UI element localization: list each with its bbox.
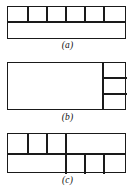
panel-b-vertical-divider — [102, 63, 104, 109]
panel-a-vertical-divider-5 — [103, 7, 105, 21]
panel-c-rectangle — [7, 133, 126, 173]
panel-b-horizontal-divider-2 — [102, 93, 127, 95]
panel-a-vertical-divider-2 — [46, 7, 48, 21]
panel-c-bottom-vertical-divider-1 — [65, 153, 67, 174]
panel-c-top-vertical-divider-3 — [65, 134, 67, 153]
figure-container: (a) (b) (c) — [0, 0, 135, 196]
panel-a-vertical-divider-4 — [84, 7, 86, 21]
panel-c-bottom-vertical-divider-3 — [103, 153, 105, 174]
panel-a-rectangle — [7, 6, 126, 39]
panel-a-caption: (a) — [0, 40, 135, 51]
panel-a-vertical-divider-3 — [65, 7, 67, 21]
panel-a-vertical-divider-1 — [27, 7, 29, 21]
panel-c-bottom-vertical-divider-2 — [84, 153, 86, 174]
panel-c-caption: (c) — [0, 175, 135, 186]
panel-b-caption: (b) — [0, 112, 135, 123]
panel-a-horizontal-divider — [8, 21, 125, 23]
panel-c-top-vertical-divider-2 — [46, 134, 48, 153]
panel-c-top-vertical-divider-1 — [27, 134, 29, 153]
panel-b-horizontal-divider-1 — [102, 77, 127, 79]
panel-b-rectangle — [7, 62, 126, 110]
